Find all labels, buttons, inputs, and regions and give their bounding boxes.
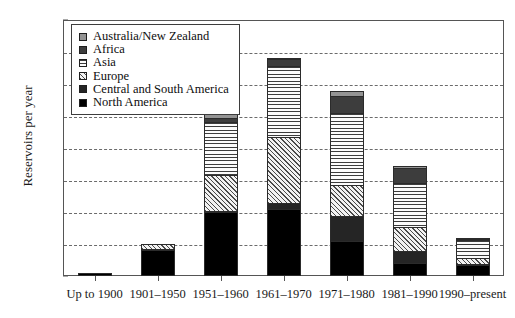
bar-segment-asia xyxy=(330,113,364,187)
stacked-bar[interactable] xyxy=(330,92,364,276)
bar-segment-north xyxy=(204,212,238,276)
bar-segment-europe xyxy=(393,227,427,253)
x-axis-tick-mark xyxy=(347,276,348,281)
legend-swatch-icon xyxy=(79,85,87,93)
legend-swatch-icon xyxy=(79,59,87,67)
bar-segment-north xyxy=(456,265,490,276)
x-axis-tick-mark xyxy=(410,276,411,281)
legend-item[interactable]: North America xyxy=(79,96,229,109)
x-axis-tick-mark xyxy=(221,276,222,281)
bar-segment-africa xyxy=(393,168,427,184)
bar-segment-europe xyxy=(267,137,301,204)
x-axis-tick-label: 1990–present xyxy=(413,287,515,302)
bar-segment-central xyxy=(330,216,364,242)
chart-figure: Reservoirs per year 01020304050607080 Up… xyxy=(0,0,515,318)
bar-segment-africa xyxy=(330,96,364,114)
stacked-bar[interactable] xyxy=(141,245,175,276)
bar-slot xyxy=(441,20,504,276)
x-axis-tick-mark xyxy=(473,276,474,281)
legend-swatch-icon xyxy=(79,72,87,80)
bar-segment-north xyxy=(141,250,175,276)
legend-item[interactable]: Europe xyxy=(79,70,229,83)
chart-legend: Australia/New ZealandAfricaAsiaEuropeCen… xyxy=(71,24,240,115)
bar-segment-asia xyxy=(267,66,301,138)
legend-swatch-icon xyxy=(79,33,87,41)
legend-swatch-icon xyxy=(79,99,87,107)
stacked-bar[interactable] xyxy=(204,115,238,276)
bar-segment-asia xyxy=(204,122,238,176)
legend-item[interactable]: Asia xyxy=(79,56,229,69)
bar-slot xyxy=(252,20,315,276)
legend-item[interactable]: Central and South America xyxy=(79,83,229,96)
x-axis-tick-mark xyxy=(284,276,285,281)
bar-segment-asia xyxy=(393,183,427,228)
legend-swatch-icon xyxy=(79,46,87,54)
y-axis-title: Reservoirs per year xyxy=(20,26,36,246)
legend-item-label: North America xyxy=(93,96,168,109)
legend-item-label: Asia xyxy=(93,56,116,69)
bar-segment-north xyxy=(267,209,301,276)
x-axis-tick-mark xyxy=(95,276,96,281)
bar-segment-europe xyxy=(204,175,238,212)
x-axis-tick-mark xyxy=(158,276,159,281)
stacked-bar[interactable] xyxy=(393,167,427,276)
stacked-bar[interactable] xyxy=(456,239,490,276)
legend-item-label: Europe xyxy=(93,70,129,83)
bar-segment-europe xyxy=(330,185,364,217)
bar-segment-north xyxy=(393,263,427,276)
bar-segment-north xyxy=(330,241,364,276)
legend-item-label: Central and South America xyxy=(93,83,229,96)
bar-segment-asia xyxy=(456,240,490,259)
bar-slot xyxy=(315,20,378,276)
stacked-bar[interactable] xyxy=(267,59,301,276)
bar-slot xyxy=(378,20,441,276)
